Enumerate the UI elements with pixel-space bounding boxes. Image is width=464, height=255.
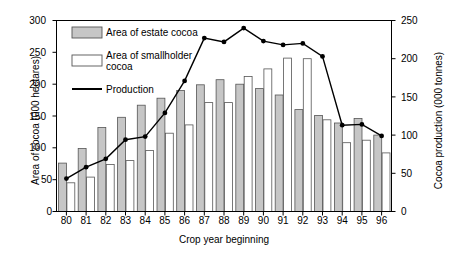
bar-smallholder-80 [67, 183, 75, 212]
bar-smallholder-92 [303, 59, 311, 212]
bar-estate-90 [256, 89, 264, 212]
bar-estate-96 [374, 135, 382, 211]
bar-smallholder-89 [244, 77, 252, 212]
bar-smallholder-95 [362, 140, 370, 211]
bar-smallholder-91 [284, 58, 292, 211]
production-point-80 [64, 176, 69, 181]
production-point-81 [84, 165, 89, 170]
plot-canvas [0, 0, 464, 255]
production-point-91 [281, 43, 286, 48]
production-point-86 [182, 79, 187, 84]
bar-smallholder-94 [343, 143, 351, 212]
production-point-85 [163, 111, 168, 116]
production-point-93 [320, 54, 325, 59]
production-point-92 [300, 41, 305, 46]
legend-markers [72, 27, 102, 89]
production-point-83 [123, 137, 128, 142]
production-point-90 [261, 39, 266, 44]
bar-estate-91 [275, 95, 283, 212]
bar-smallholder-84 [146, 150, 154, 211]
production-point-89 [241, 26, 246, 31]
bar-smallholder-93 [323, 120, 331, 212]
bar-estate-95 [354, 119, 362, 212]
cocoa-area-production-chart: Area of cocoa (000 hectares) Cocoa produ… [0, 0, 464, 255]
bar-estate-83 [118, 117, 126, 211]
bar-estate-82 [98, 128, 106, 212]
bar-estate-89 [236, 84, 244, 211]
bar-estate-86 [177, 91, 185, 212]
bar-estate-84 [137, 105, 145, 211]
bar-smallholder-85 [165, 133, 173, 211]
bar-estate-80 [59, 163, 67, 211]
bar-smallholder-86 [185, 125, 193, 212]
bar-estate-81 [78, 149, 86, 212]
bar-smallholder-90 [264, 69, 272, 212]
bar-smallholder-88 [225, 103, 233, 212]
bar-estate-92 [295, 110, 303, 212]
legend-swatch-estate-icon [72, 27, 102, 38]
legend-swatch-smallholder-icon [72, 55, 102, 66]
bar-estate-93 [315, 115, 323, 211]
bar-estate-88 [216, 80, 224, 212]
bar-smallholder-82 [106, 164, 114, 211]
production-point-96 [379, 134, 384, 139]
bar-smallholder-96 [382, 153, 390, 212]
production-point-95 [360, 122, 365, 127]
bar-smallholder-81 [87, 177, 95, 211]
bar-smallholder-87 [205, 103, 213, 212]
production-point-94 [340, 123, 345, 128]
production-point-88 [222, 40, 227, 45]
bar-estate-94 [334, 123, 342, 212]
bar-smallholder-83 [126, 161, 134, 212]
bar-estate-87 [196, 85, 204, 212]
production-point-82 [103, 156, 108, 161]
production-point-87 [202, 36, 207, 41]
production-point-84 [143, 134, 148, 139]
